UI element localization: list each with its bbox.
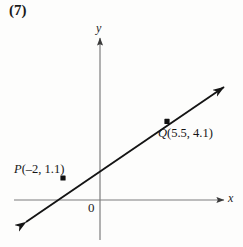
coordinate-plot bbox=[0, 0, 243, 247]
plotted-line bbox=[26, 87, 224, 222]
point-marker-q bbox=[164, 119, 169, 124]
point-label-p-name: P bbox=[14, 162, 22, 176]
origin-label: 0 bbox=[88, 201, 95, 214]
point-label-p: P(–2, 1.1) bbox=[14, 163, 64, 176]
point-label-q-name: Q bbox=[158, 126, 167, 140]
point-marker-p bbox=[60, 175, 65, 180]
point-label-q: Q(5.5, 4.1) bbox=[158, 127, 213, 140]
y-axis-label: y bbox=[96, 22, 101, 34]
figure-container: (7) y x 0 P(–2, 1.1) Q(5.5, 4.1 bbox=[0, 0, 243, 247]
point-label-p-coords: (–2, 1.1) bbox=[22, 162, 65, 176]
x-axis-label: x bbox=[228, 192, 233, 204]
point-label-q-coords: (5.5, 4.1) bbox=[167, 126, 213, 140]
